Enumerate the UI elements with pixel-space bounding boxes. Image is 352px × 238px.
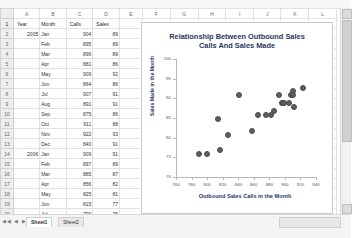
cell-b18-month[interactable]: May <box>40 189 67 199</box>
cell-E2[interactable] <box>120 29 143 39</box>
cell-c14-calls[interactable]: 909 <box>66 149 92 159</box>
cell-b19-month[interactable]: Jun <box>40 199 67 209</box>
cell-d16-sales[interactable]: 87 <box>93 169 120 179</box>
cell-d1-sales-header[interactable]: Sales <box>93 19 120 29</box>
cell-b16-month[interactable]: Mar <box>40 169 67 179</box>
vertical-scrollbar-thumb[interactable] <box>342 20 352 142</box>
column-header-l[interactable]: L <box>309 9 337 19</box>
cell-b6-month[interactable]: May <box>40 69 67 79</box>
cell-d19-sales[interactable]: 77 <box>93 199 120 209</box>
row-header-7[interactable]: 7 <box>1 79 14 89</box>
cell-c3-calls[interactable]: 895 <box>66 39 92 49</box>
column-header-j[interactable]: J <box>253 9 281 19</box>
cell-a11-year[interactable] <box>13 119 39 129</box>
cell-a3-year[interactable] <box>13 39 39 49</box>
cell-a4-year[interactable] <box>13 49 39 59</box>
cell-a15-year[interactable] <box>13 159 39 169</box>
cell-d2-sales[interactable]: 89 <box>93 29 120 39</box>
cell-d3-sales[interactable]: 89 <box>93 39 120 49</box>
cell-a7-year[interactable] <box>13 79 39 89</box>
cell-c6-calls[interactable]: 909 <box>66 69 92 79</box>
row-header-2[interactable]: 2 <box>1 29 14 39</box>
cell-d6-sales[interactable]: 92 <box>93 69 120 79</box>
cell-c17-calls[interactable]: 856 <box>66 179 92 189</box>
cell-c10-calls[interactable]: 875 <box>66 109 92 119</box>
cell-E12[interactable] <box>120 129 143 139</box>
cell-d17-sales[interactable]: 82 <box>93 179 120 189</box>
cell-b1-month-header[interactable]: Month <box>40 19 67 29</box>
cell-c12-calls[interactable]: 922 <box>66 129 92 139</box>
cell-E4[interactable] <box>120 49 143 59</box>
cell-c8-calls[interactable]: 907 <box>66 89 92 99</box>
cell-E18[interactable] <box>120 189 143 199</box>
row-header-6[interactable]: 6 <box>1 69 14 79</box>
cell-b12-month[interactable]: Nov <box>40 129 67 139</box>
row-header-14[interactable]: 14 <box>1 149 14 159</box>
cell-E8[interactable] <box>120 89 143 99</box>
cell-d9-sales[interactable]: 91 <box>93 99 120 109</box>
cell-b8-month[interactable]: Jul <box>40 89 67 99</box>
column-header-c[interactable]: C <box>66 9 92 19</box>
column-header-g[interactable]: G <box>170 9 198 19</box>
cell-c9-calls[interactable]: 891 <box>66 99 92 109</box>
cell-a19-year[interactable] <box>13 199 39 209</box>
column-header-d[interactable]: D <box>93 9 120 19</box>
row-header-10[interactable]: 10 <box>1 109 14 119</box>
cell-c19-calls[interactable]: 815 <box>66 199 92 209</box>
cell-E16[interactable] <box>120 169 143 179</box>
cell-E15[interactable] <box>120 159 143 169</box>
row-header-3[interactable]: 3 <box>1 39 14 49</box>
cell-b3-month[interactable]: Feb <box>40 39 67 49</box>
cell-a12-year[interactable] <box>13 129 39 139</box>
column-header-i[interactable]: I <box>226 9 253 19</box>
cell-a10-year[interactable] <box>13 109 39 119</box>
cell-a14-year[interactable]: 2006 <box>13 149 39 159</box>
cell-c7-calls[interactable]: 864 <box>66 79 92 89</box>
row-header-8[interactable]: 8 <box>1 89 14 99</box>
row-header-11[interactable]: 11 <box>1 119 14 129</box>
cell-a17-year[interactable] <box>13 179 39 189</box>
cell-a9-year[interactable] <box>13 99 39 109</box>
cell-a6-year[interactable] <box>13 69 39 79</box>
row-header-1[interactable]: 1 <box>1 19 14 29</box>
row-header-17[interactable]: 17 <box>1 179 14 189</box>
cell-E10[interactable] <box>120 109 143 119</box>
cell-d13-sales[interactable]: 91 <box>93 139 120 149</box>
cell-e1[interactable] <box>120 19 143 29</box>
cell-b13-month[interactable]: Dec <box>40 139 67 149</box>
row-header-16[interactable]: 16 <box>1 169 14 179</box>
cell-c13-calls[interactable]: 840 <box>66 139 92 149</box>
cell-b10-month[interactable]: Sep <box>40 109 67 119</box>
cell-b15-month[interactable]: Feb <box>40 159 67 169</box>
cell-a8-year[interactable] <box>13 89 39 99</box>
cell-a16-year[interactable] <box>13 169 39 179</box>
column-header-h[interactable]: H <box>198 9 226 19</box>
cell-E9[interactable] <box>120 99 143 109</box>
scroll-down-arrow-icon[interactable] <box>342 204 352 214</box>
cell-c18-calls[interactable]: 825 <box>66 189 92 199</box>
cell-E14[interactable] <box>120 149 143 159</box>
row-header-18[interactable]: 18 <box>1 189 14 199</box>
cell-b14-month[interactable]: Jan <box>40 149 67 159</box>
cell-d12-sales[interactable]: 93 <box>93 129 120 139</box>
cell-d14-sales[interactable]: 91 <box>93 149 120 159</box>
scatter-chart[interactable]: Relationship Between Outbound Sales Call… <box>141 22 333 214</box>
cell-b2-month[interactable]: Jan <box>40 29 67 39</box>
cell-d15-sales[interactable]: 89 <box>93 159 120 169</box>
cell-d7-sales[interactable]: 86 <box>93 79 120 89</box>
cell-E11[interactable] <box>120 119 143 129</box>
cell-d11-sales[interactable]: 88 <box>93 119 120 129</box>
cell-c11-calls[interactable]: 911 <box>66 119 92 129</box>
cell-E13[interactable] <box>120 139 143 149</box>
column-header-f[interactable]: F <box>143 9 171 19</box>
cell-a2-year[interactable]: 2005 <box>13 29 39 39</box>
cell-b11-month[interactable]: Oct <box>40 119 67 129</box>
sheet-tab-sheet2[interactable]: Sheet2 <box>58 217 84 227</box>
cell-b17-month[interactable]: Apr <box>40 179 67 189</box>
cell-b9-month[interactable]: Aug <box>40 99 67 109</box>
row-header-5[interactable]: 5 <box>1 59 14 69</box>
column-header-b[interactable]: B <box>40 9 67 19</box>
row-header-9[interactable]: 9 <box>1 99 14 109</box>
cell-E6[interactable] <box>120 69 143 79</box>
cell-c15-calls[interactable]: 897 <box>66 159 92 169</box>
